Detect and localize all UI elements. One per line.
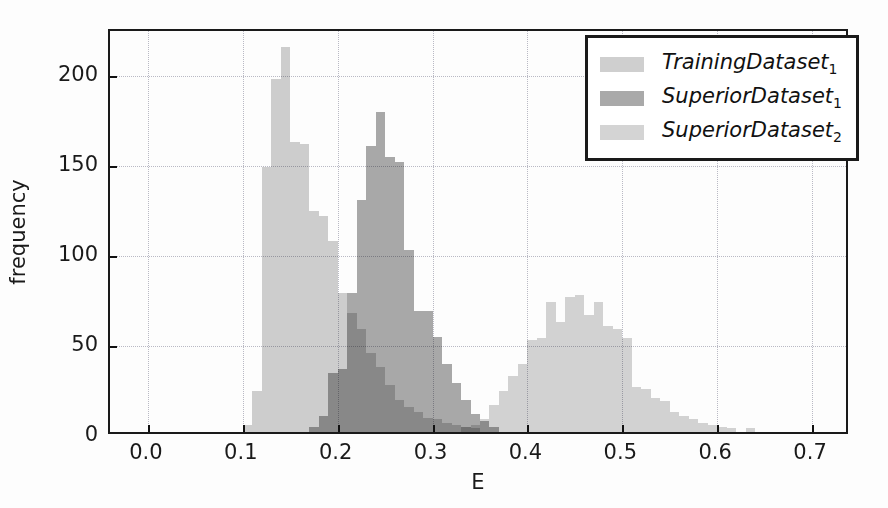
histogram-bar (328, 373, 337, 432)
histogram-bar (537, 338, 546, 432)
x-axis-tick-label: 0.0 (129, 440, 162, 464)
histogram-bar (499, 391, 508, 432)
histogram-bar (527, 340, 536, 432)
histogram-bar (603, 326, 612, 432)
gridline-horizontal (110, 166, 846, 167)
histogram-bar (660, 401, 669, 432)
histogram-bar (746, 428, 755, 432)
y-axis-tick-label: 50 (71, 332, 98, 356)
histogram-bar (300, 144, 309, 432)
histogram-bar (271, 79, 280, 432)
gridline-horizontal (110, 256, 846, 257)
histogram-bar (613, 329, 622, 432)
y-axis-tick (110, 76, 117, 78)
histogram-bar (366, 146, 375, 432)
legend-item: SuperiorDataset2 (600, 115, 842, 149)
x-axis-tick-label: 0.7 (793, 440, 826, 464)
x-axis-tick (243, 425, 245, 432)
legend-item: TrainingDataset1 (600, 47, 842, 81)
legend-swatch (600, 125, 644, 140)
histogram-bar (556, 322, 565, 432)
x-axis-tick-label: 0.3 (414, 440, 447, 464)
y-axis-tick-label: 200 (58, 62, 98, 86)
histogram-bar (641, 389, 650, 432)
histogram-bar (309, 211, 318, 432)
x-axis-tick (622, 425, 624, 432)
histogram-bar (632, 387, 641, 432)
histogram-bar (423, 311, 432, 432)
legend-swatch (600, 91, 644, 106)
x-axis-tick-label: 0.6 (698, 440, 731, 464)
histogram-bar (433, 337, 442, 432)
x-axis-tick-label: 0.5 (604, 440, 637, 464)
histogram-bar (452, 383, 461, 432)
gridline-vertical (148, 31, 149, 432)
histogram-bar (309, 427, 318, 432)
histogram-bar (594, 302, 603, 432)
histogram-bar (471, 425, 480, 432)
histogram-bar (670, 412, 679, 432)
legend-label: TrainingDataset1 (662, 50, 837, 77)
histogram-bar (461, 427, 470, 432)
x-axis-tick-label: 0.4 (509, 440, 542, 464)
x-axis-tick (338, 425, 340, 432)
histogram-bar (376, 112, 385, 432)
x-axis-tick (812, 425, 814, 432)
histogram-bar (319, 416, 328, 432)
y-axis-tick (110, 346, 117, 348)
y-axis-tick (110, 166, 117, 168)
histogram-bar (622, 338, 631, 432)
x-axis-label: E (471, 470, 484, 494)
y-axis-tick-label: 0 (85, 422, 98, 446)
chart-legend: TrainingDataset1SuperiorDataset1Superior… (585, 35, 859, 161)
y-axis-tick-label: 100 (58, 242, 98, 266)
histogram-bar (442, 364, 451, 432)
histogram-bar (395, 162, 404, 432)
histogram-bar (575, 295, 584, 432)
histogram-bar (565, 297, 574, 432)
histogram-bar (698, 423, 707, 432)
legend-swatch (600, 57, 644, 72)
histogram-bar (347, 293, 356, 432)
y-axis-label: frequency (6, 179, 30, 284)
x-axis-tick (527, 425, 529, 432)
histogram-bar (252, 391, 261, 432)
histogram-bar (357, 200, 366, 432)
legend-label: SuperiorDataset1 (662, 84, 842, 111)
histogram-bar (489, 405, 498, 432)
y-axis-tick-label: 150 (58, 152, 98, 176)
histogram-bar (414, 311, 423, 432)
gridline-horizontal (110, 346, 846, 347)
x-axis-tick (717, 425, 719, 432)
histogram-bar (584, 315, 593, 432)
histogram-bar (518, 364, 527, 432)
histogram-bar (290, 142, 299, 432)
histogram-bar (546, 302, 555, 432)
histogram-bar (508, 376, 517, 432)
y-axis-tick (110, 256, 117, 258)
histogram-bar (338, 369, 347, 432)
x-axis-tick (148, 425, 150, 432)
x-axis-tick-label: 0.2 (319, 440, 352, 464)
histogram-bar (404, 250, 413, 432)
legend-item: SuperiorDataset1 (600, 81, 842, 115)
histogram-bar (708, 425, 717, 432)
histogram-bar (727, 428, 736, 432)
x-axis-tick (433, 425, 435, 432)
x-axis-tick-label: 0.1 (224, 440, 257, 464)
histogram-bar (679, 416, 688, 432)
legend-label: SuperiorDataset2 (662, 118, 842, 145)
histogram-bar (319, 216, 328, 432)
histogram-bar (480, 419, 489, 432)
histogram-bar (651, 398, 660, 432)
histogram-figure: E frequency TrainingDataset1SuperiorData… (0, 0, 888, 508)
histogram-bar (689, 419, 698, 432)
histogram-bar (281, 47, 290, 432)
histogram-bar (385, 157, 394, 432)
gridline-vertical (243, 31, 244, 432)
histogram-bar (262, 167, 271, 432)
